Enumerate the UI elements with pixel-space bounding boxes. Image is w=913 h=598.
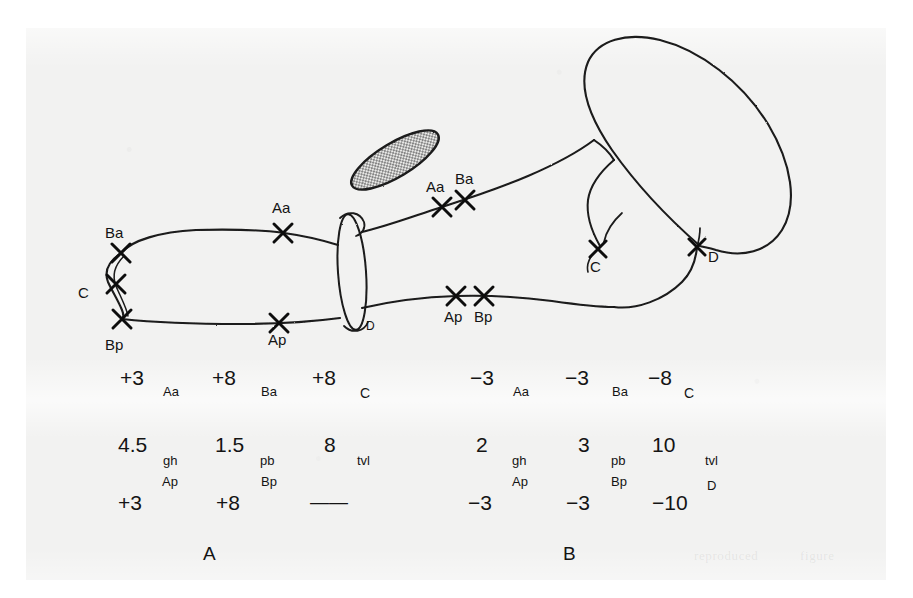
table-a-cell-sub: C (360, 385, 370, 401)
table-b-cell-sub: gh (512, 453, 526, 468)
table-a-cell-sub: Aa (163, 384, 180, 399)
table-a: +3 Aa +8 Ba +8 C 4.5 gh 1.5 pb 8 tvl Ap … (100, 355, 383, 564)
table-a-caption: A (203, 543, 216, 564)
table-a-cell-value: +3 (120, 366, 144, 389)
diagram-label-bp-left: Bp (105, 336, 123, 353)
diagram-label-bp-right: Bp (474, 308, 492, 325)
table-a-cell-value: 8 (324, 433, 336, 456)
table-b-cell-value: −3 (470, 366, 494, 389)
diagram-label-ap-right: Ap (444, 308, 462, 325)
table-a-cell-sub: Ba (261, 384, 278, 399)
right-loop-fold-tip-path (604, 213, 622, 242)
diagram-label-ba-right: Ba (455, 170, 474, 187)
cross-marker-ba-right (456, 191, 474, 209)
diagram-label-aa-right: Aa (426, 178, 445, 195)
table-b-cell-sub: Ba (612, 384, 629, 399)
table-b-cell-sub: tvl (705, 453, 718, 468)
lower-strand-path (122, 318, 340, 324)
diagram-label-aa-mid: Aa (272, 199, 291, 216)
figure-page: Ba C Bp Aa Ap Aa Ba Ap Bp C D D +3 Aa (0, 0, 913, 598)
bleed-through-text: reproduced (694, 548, 758, 564)
table-b-cell-sub: C (684, 385, 694, 401)
right-loop-inner-fold-path (588, 160, 614, 246)
table-b-cell-value: −3 (468, 491, 492, 514)
cross-marker-aa-right (433, 198, 451, 216)
diagram-label-d-ellipse: D (366, 319, 375, 333)
diagram-label-d-right: D (708, 248, 719, 265)
table-b-cell-sub: Ap (512, 474, 528, 489)
lower-strand-to-d-path (614, 247, 697, 308)
figure-artwork: Ba C Bp Aa Ap Aa Ba Ap Bp C D D +3 Aa (0, 0, 913, 598)
table-b-cell-value: −3 (566, 491, 590, 514)
table-a-cell-sub: pb (260, 453, 274, 468)
upper-strand-path (121, 230, 338, 253)
table-a-cell-sub: Ap (162, 474, 178, 489)
diagram-label-group: Ba C Bp Aa Ap Aa Ba Ap Bp C D D (78, 170, 719, 353)
table-b-cell-value: −10 (652, 491, 688, 514)
table-b-caption: B (563, 543, 576, 564)
table-b-cell-sub: Aa (513, 384, 530, 399)
diagram-label-ba-left: Ba (105, 224, 124, 241)
table-a-cell-value: +8 (216, 491, 240, 514)
table-a-cell-sub: Bp (261, 474, 277, 489)
table-b-cell-sub: pb (611, 453, 625, 468)
table-a-cell-value: +3 (118, 491, 142, 514)
table-a-cell-value: —— (310, 491, 348, 512)
table-a-cell-sub: gh (163, 453, 177, 468)
diagram-label-c-left: C (78, 284, 89, 301)
table-b-cell-value: 2 (476, 433, 488, 456)
table-a-cell-sub: tvl (357, 453, 370, 468)
cross-marker-group (107, 191, 705, 332)
diagram-label-c-right: C (590, 258, 601, 275)
table-a-cell-value: 1.5 (215, 433, 244, 456)
table-b-cell-value: 10 (652, 433, 675, 456)
bleed-through-text: figure (800, 548, 835, 564)
table-b-cell-value: 3 (578, 433, 590, 456)
table-a-cell-value: +8 (212, 366, 236, 389)
diagram-label-ap-mid: Ap (268, 331, 286, 348)
table-a-cell-value: +8 (312, 366, 336, 389)
table-b: −3 Aa −3 Ba −8 C 2 gh 3 pb 10 tvl Ap −3 … (448, 355, 735, 564)
table-b-cell-value: −8 (648, 366, 672, 389)
table-b-cell-value: −3 (565, 366, 589, 389)
table-b-cell-sub: D (707, 478, 716, 493)
table-b-cell-sub: Bp (611, 474, 627, 489)
table-a-cell-value: 4.5 (118, 433, 147, 456)
